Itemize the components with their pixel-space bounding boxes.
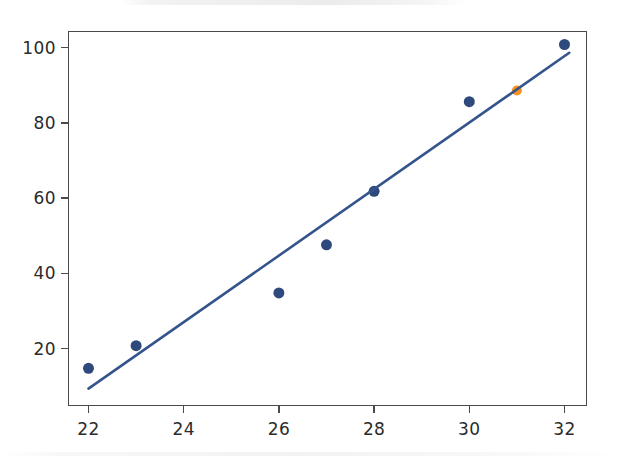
x-axis-tick-mark	[564, 406, 566, 413]
x-axis-tick-label: 32	[553, 419, 575, 439]
x-axis-tick-mark	[373, 406, 375, 413]
plot-area	[68, 31, 587, 406]
x-axis-tick-label: 28	[363, 419, 385, 439]
y-axis-tick-label: 20	[34, 339, 56, 359]
x-axis-tick-mark	[88, 406, 90, 413]
y-axis-tick-mark	[61, 273, 68, 275]
x-axis-tick-mark	[183, 406, 185, 413]
y-axis-tick-mark	[61, 47, 68, 49]
figure-canvas: 20406080100222426283032	[0, 0, 617, 456]
x-axis-tick-label: 26	[268, 419, 290, 439]
scan-artifact-bottom	[0, 452, 617, 456]
y-axis-tick-mark	[61, 348, 68, 350]
x-axis-tick-mark	[469, 406, 471, 413]
x-axis-tick-label: 30	[458, 419, 480, 439]
y-axis-tick-mark	[61, 197, 68, 199]
y-axis-tick-label: 100	[22, 38, 56, 58]
y-axis-tick-mark	[61, 122, 68, 124]
y-axis-tick-label: 40	[34, 263, 56, 283]
scan-artifact-top	[0, 0, 617, 5]
x-axis-tick-label: 24	[172, 419, 194, 439]
y-axis-tick-label: 80	[34, 113, 56, 133]
y-axis-tick-label: 60	[34, 188, 56, 208]
x-axis-tick-mark	[278, 406, 280, 413]
x-axis-tick-label: 22	[77, 419, 99, 439]
